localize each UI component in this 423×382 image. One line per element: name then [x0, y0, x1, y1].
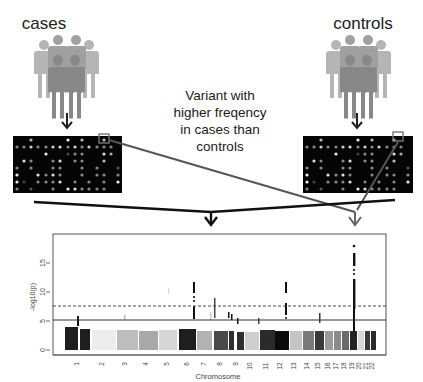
x-tick-14: 14	[303, 362, 310, 370]
controls-people-icon	[326, 35, 391, 119]
controls-genotype-array	[303, 132, 413, 193]
x-tick-7: 7	[200, 362, 207, 366]
y-axis-label: -log10(p)	[29, 283, 37, 311]
x-tick-10: 10	[246, 362, 253, 370]
x-tick-11: 11	[262, 362, 269, 369]
peak-down-arrow-icon	[349, 212, 361, 225]
cases-people-icon	[34, 35, 99, 119]
x-tick-3: 3	[121, 362, 128, 366]
cases-genotype-array	[13, 134, 122, 193]
diagram-canvas: 0 5 10 15 -log10(p)	[0, 0, 423, 382]
x-axis-label: Chromosome	[195, 372, 240, 381]
y-tick-5: 5	[39, 319, 46, 323]
x-tick-5: 5	[163, 362, 170, 366]
x-tick-4: 4	[142, 362, 149, 366]
merge-down-arrow-icon	[205, 212, 217, 225]
x-tick-8: 8	[216, 362, 223, 366]
x-tick-16: 16	[324, 362, 331, 370]
y-tick-15: 15	[39, 259, 46, 267]
merge-bracket	[34, 200, 395, 212]
x-tick-15: 15	[314, 362, 321, 370]
x-tick-9: 9	[232, 362, 239, 366]
x-tick-1: 1	[73, 362, 80, 366]
x-tick-18: 18	[340, 362, 347, 370]
x-tick-12: 12	[276, 362, 283, 370]
y-tick-0: 0	[39, 348, 46, 352]
x-tick-6: 6	[183, 362, 190, 366]
x-tick-22: 22	[368, 362, 375, 370]
x-tick-17: 17	[332, 362, 339, 370]
y-tick-10: 10	[39, 288, 46, 296]
y-axis	[46, 263, 50, 350]
x-tick-19: 19	[348, 362, 355, 370]
x-tick-2: 2	[98, 362, 105, 366]
x-tick-labels: 1 2 3 4 5 6 7 8 9 10 11 12 13 14 15 16 1…	[73, 362, 375, 370]
x-tick-20: 20	[355, 362, 362, 370]
x-tick-13: 13	[290, 362, 297, 370]
manhattan-plot: 0 5 10 15 -log10(p)	[29, 234, 386, 381]
